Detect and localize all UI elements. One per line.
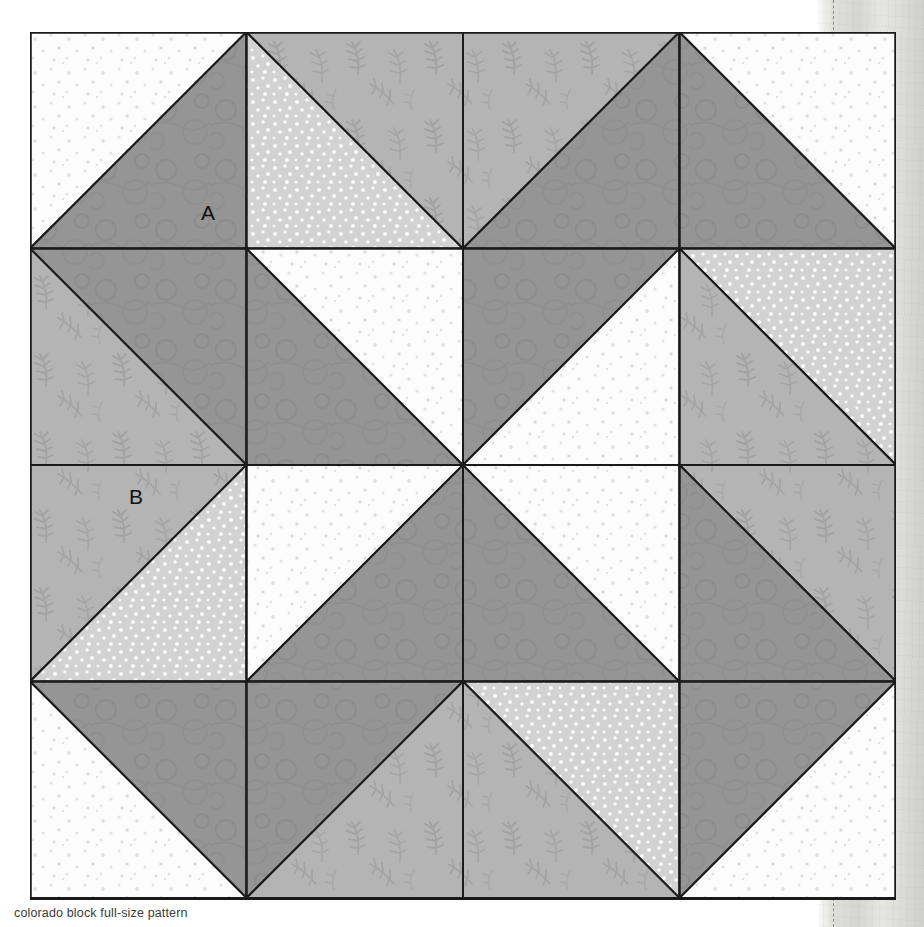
fold-line-bottom: [833, 898, 834, 927]
pattern-page: AB colorado block full-size pattern: [0, 0, 924, 927]
fold-line-top: [833, 0, 834, 30]
figure-caption: colorado block full-size pattern: [14, 906, 188, 920]
quilt-block-svg: AB: [30, 32, 896, 900]
quilt-block: AB: [30, 32, 896, 900]
patch-label-b: B: [129, 485, 143, 508]
patch-label-a: A: [201, 201, 215, 224]
